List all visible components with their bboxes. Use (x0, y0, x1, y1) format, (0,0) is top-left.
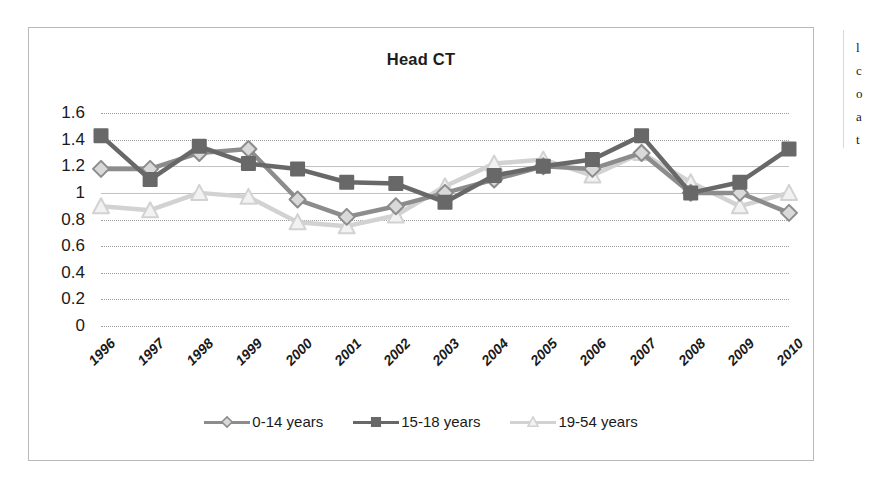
x-axis-tick-1998: 1998 (170, 335, 217, 382)
data-point (684, 186, 697, 199)
data-point (439, 196, 452, 209)
x-axis-tick-1997: 1997 (121, 335, 168, 382)
data-point (193, 140, 206, 153)
data-point (291, 162, 304, 175)
y-axis-tick-0.6: 0.6 (37, 236, 85, 256)
legend-marker-triangle-icon (527, 416, 539, 428)
plot-area: 1.61.41.210.80.60.40.20 1996199719981999… (101, 113, 789, 326)
x-axis-tick-2005: 2005 (514, 335, 561, 382)
clipped-margin-text: lcoat (856, 36, 869, 144)
legend-swatch-square-icon (353, 415, 399, 429)
legend-label: 0-14 years (252, 413, 323, 430)
data-point (339, 209, 355, 225)
data-point (340, 176, 353, 189)
x-axis-tick-2009: 2009 (710, 335, 757, 382)
data-point (537, 160, 550, 173)
x-axis-tick-2001: 2001 (317, 335, 364, 382)
margin-text-fragment: a (856, 105, 869, 128)
y-axis-tick-0.4: 0.4 (37, 263, 85, 283)
data-point (389, 177, 402, 190)
series-layer (101, 113, 789, 326)
y-axis-tick-1.2: 1.2 (37, 156, 85, 176)
data-point (781, 205, 797, 221)
data-point (635, 129, 648, 142)
y-axis-tick-1.6: 1.6 (37, 103, 85, 123)
x-axis-tick-2008: 2008 (661, 335, 708, 382)
x-axis-tick-1999: 1999 (219, 335, 266, 382)
y-axis-tick-1: 1 (37, 183, 85, 203)
chart-legend: 0-14 years15-18 years19-54 years (29, 413, 813, 430)
data-point (586, 153, 599, 166)
x-axis-tick-2002: 2002 (366, 335, 413, 382)
x-axis-tick-1996: 1996 (72, 335, 119, 382)
legend-item-15-18-years[interactable]: 15-18 years (353, 413, 480, 430)
gridline (101, 326, 789, 327)
legend-item-0-14-years[interactable]: 0-14 years (204, 413, 323, 430)
x-axis-tick-2010: 2010 (760, 335, 807, 382)
x-axis-tick-2004: 2004 (465, 335, 512, 382)
data-point (144, 173, 157, 186)
legend-marker-square-icon (370, 416, 382, 428)
legend-marker-diamond-icon (221, 416, 233, 428)
data-point (488, 169, 501, 182)
legend-label: 19-54 years (558, 413, 637, 430)
chart-title: Head CT (29, 50, 813, 69)
legend-label: 15-18 years (401, 413, 480, 430)
data-point (242, 157, 255, 170)
legend-item-19-54-years[interactable]: 19-54 years (510, 413, 637, 430)
x-axis-tick-2003: 2003 (416, 335, 463, 382)
data-point (783, 142, 796, 155)
margin-text-fragment: t (856, 128, 869, 144)
margin-text-fragment: l (856, 36, 869, 59)
margin-text-fragment: o (856, 82, 869, 105)
legend-swatch-triangle-icon (510, 415, 556, 429)
data-point (95, 129, 108, 142)
page-divider-rule (843, 30, 844, 148)
x-axis-tick-2007: 2007 (612, 335, 659, 382)
chart-container: Head CT 1.61.41.210.80.60.40.20 19961997… (28, 27, 814, 461)
x-axis-tick-2000: 2000 (268, 335, 315, 382)
y-axis-tick-0.8: 0.8 (37, 210, 85, 230)
y-axis-tick-0: 0 (37, 316, 85, 336)
legend-swatch-diamond-icon (204, 415, 250, 429)
data-point (733, 176, 746, 189)
x-axis-tick-2006: 2006 (563, 335, 610, 382)
data-point (93, 161, 109, 177)
y-axis-tick-0.2: 0.2 (37, 289, 85, 309)
y-axis-tick-1.4: 1.4 (37, 130, 85, 150)
margin-text-fragment: c (856, 59, 869, 82)
